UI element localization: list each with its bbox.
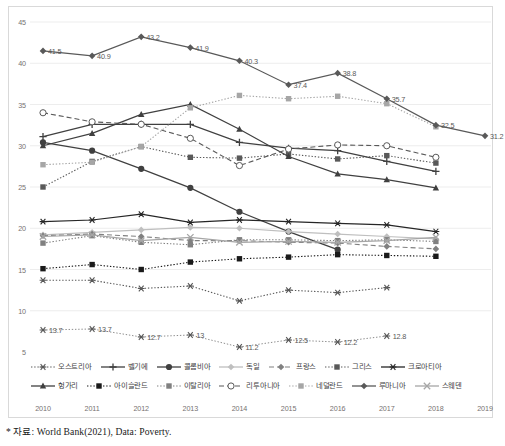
x-axis-tick: 2017 — [367, 404, 407, 413]
data-point-marker — [109, 363, 116, 370]
data-point-marker — [187, 185, 193, 191]
data-point-marker — [433, 246, 440, 253]
data-label-austria: 13 — [196, 331, 204, 340]
data-point-marker — [40, 277, 47, 283]
legend-item-croatia[interactable]: 크로아티아 — [380, 362, 442, 371]
data-point-marker — [384, 153, 389, 158]
data-point-marker — [40, 266, 45, 271]
data-point-marker — [360, 382, 367, 389]
data-label-romania: 38.8 — [343, 69, 356, 78]
data-point-marker — [40, 162, 45, 167]
data-point-marker — [335, 156, 340, 161]
legend-label: 오스트리아 — [58, 362, 92, 371]
x-axis-tick: 2019 — [465, 404, 505, 413]
data-point-marker — [236, 298, 243, 304]
legend-label: 네덜란드 — [316, 381, 343, 390]
data-point-marker — [433, 254, 438, 259]
data-point-marker — [236, 217, 243, 223]
data-point-marker — [89, 119, 95, 125]
legend-key-lithuania — [218, 381, 244, 390]
data-label-austria: 12.7 — [147, 333, 160, 342]
data-point-marker — [187, 121, 194, 128]
data-point-marker — [188, 259, 193, 264]
y-axis-tick: 45 — [4, 18, 26, 27]
data-point-marker — [187, 135, 193, 141]
legend-key-croatia — [380, 362, 406, 371]
legend-item-italy[interactable]: 이탈리아 — [156, 381, 211, 390]
legend-label: 독일 — [246, 362, 259, 371]
data-point-marker — [40, 327, 47, 333]
data-label-romania: 32.5 — [441, 121, 454, 130]
data-label-austria: 11.2 — [245, 343, 258, 352]
data-point-marker — [432, 229, 439, 235]
data-point-marker — [384, 253, 389, 258]
data-point-marker — [89, 160, 94, 165]
legend-label: 콜롬비아 — [184, 362, 211, 371]
x-axis-tick: 2014 — [219, 404, 259, 413]
data-label-austria: 12.2 — [344, 338, 357, 347]
data-point-marker — [236, 344, 243, 350]
legend-item-germany[interactable]: 독일 — [218, 362, 259, 371]
chart-legend: 오스트리아벨기에콜롬비아독일프랑스그리스크로아티아 헝가리아이슬란드이탈리아리투… — [30, 355, 470, 395]
data-point-marker — [383, 243, 390, 250]
data-point-marker — [298, 383, 303, 388]
data-point-marker — [383, 285, 390, 291]
data-point-marker — [334, 221, 341, 227]
data-point-marker — [138, 227, 145, 234]
x-axis-tick: 2013 — [170, 404, 210, 413]
x-axis-tick: 2015 — [269, 404, 309, 413]
data-point-marker — [482, 133, 489, 140]
data-point-marker — [383, 333, 390, 339]
data-point-marker — [286, 254, 291, 259]
data-label-romania: 35.7 — [392, 95, 405, 104]
data-point-marker — [285, 228, 292, 235]
legend-item-netherlands[interactable]: 네덜란드 — [288, 381, 343, 390]
data-point-marker — [335, 142, 341, 148]
data-point-marker — [236, 139, 243, 146]
legend-key-hungary — [30, 381, 56, 390]
y-axis-tick: 30 — [4, 142, 26, 151]
y-axis-tick: 15 — [4, 266, 26, 275]
data-point-marker — [383, 222, 390, 228]
data-point-marker — [166, 363, 172, 369]
y-axis-tick: 10 — [4, 307, 26, 316]
x-axis-tick: 2012 — [121, 404, 161, 413]
x-axis-tick: 2018 — [416, 404, 456, 413]
legend-item-romania[interactable]: 루마니아 — [351, 381, 406, 390]
legend-key-greece — [324, 362, 350, 371]
y-axis-tick: 5 — [4, 348, 26, 357]
data-label-romania: 40.3 — [244, 57, 257, 66]
legend-item-sweden[interactable]: 스웨덴 — [414, 381, 462, 390]
data-point-marker — [139, 144, 144, 149]
legend-item-greece[interactable]: 그리스 — [324, 362, 372, 371]
data-point-marker — [40, 240, 45, 245]
legend-item-austria[interactable]: 오스트리아 — [30, 362, 92, 371]
legend-item-lithuania[interactable]: 리투아니아 — [218, 381, 280, 390]
legend-key-iceland — [86, 381, 112, 390]
data-label-romania: 41.5 — [48, 47, 61, 56]
legend-item-hungary[interactable]: 헝가리 — [30, 381, 78, 390]
legend-label: 루마니아 — [379, 381, 406, 390]
x-axis-tick: 2016 — [318, 404, 358, 413]
data-point-marker — [236, 225, 243, 232]
legend-item-iceland[interactable]: 아이슬란드 — [86, 381, 148, 390]
data-point-marker — [188, 155, 193, 160]
legend-key-austria — [30, 362, 56, 371]
data-point-marker — [278, 363, 285, 370]
data-label-austria: 13.7 — [49, 326, 62, 335]
legend-key-romania — [351, 381, 377, 390]
data-point-marker — [89, 277, 96, 283]
data-point-marker — [138, 34, 145, 41]
legend-item-france[interactable]: 프랑스 — [268, 362, 316, 371]
data-label-austria: 12.5 — [295, 336, 308, 345]
x-axis-tick: 2010 — [23, 404, 63, 413]
data-point-marker — [40, 219, 47, 225]
legend-item-colombia[interactable]: 콜롬비아 — [156, 362, 211, 371]
legend-label: 아이슬란드 — [114, 381, 148, 390]
data-point-marker — [187, 283, 194, 289]
legend-key-netherlands — [288, 381, 314, 390]
legend-item-belgium[interactable]: 벨기에 — [100, 362, 148, 371]
data-point-marker — [334, 364, 339, 369]
data-point-marker — [40, 184, 45, 189]
data-point-marker — [334, 231, 341, 238]
